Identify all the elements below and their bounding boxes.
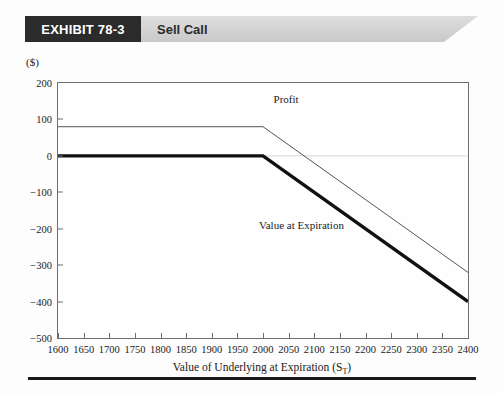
x-axis-tick-mark [212, 333, 213, 338]
x-axis-tick-label: 2150 [329, 344, 350, 355]
y-axis-tick-label: −200 [30, 223, 52, 234]
x-axis-tick-mark [289, 333, 290, 338]
y-axis-tick-mark [58, 265, 63, 266]
x-axis-tick-label: 1600 [48, 344, 69, 355]
x-axis-tick-label: 2250 [381, 344, 402, 355]
y-axis-unit-label: ($) [26, 56, 39, 68]
footer-divider [28, 377, 476, 380]
series-label-0: Profit [274, 93, 299, 105]
y-axis-tick-label: −400 [30, 296, 52, 307]
y-axis-tick-mark [58, 301, 63, 302]
x-axis-tick-mark [135, 333, 136, 338]
x-axis-tick-mark [314, 333, 315, 338]
x-axis-tick-label: 1950 [227, 344, 248, 355]
x-axis-tick-label: 2100 [304, 344, 325, 355]
exhibit-number-label: EXHIBIT 78-3 [41, 22, 124, 37]
x-axis-tick-label: 2000 [253, 344, 274, 355]
x-axis-title-main: Value of Underlying at Expiration (S [173, 361, 343, 373]
x-axis-tick-mark [391, 333, 392, 338]
chart-lines-svg [58, 83, 468, 338]
chart-container: ($) 2001000−100−200−300−400−500160016501… [0, 48, 503, 348]
x-axis-tick-label: 1850 [176, 344, 197, 355]
exhibit-header: EXHIBIT 78-3 Sell Call [25, 16, 478, 42]
x-axis-title-end: ) [347, 361, 351, 373]
y-axis-tick-mark [58, 228, 63, 229]
x-axis-tick-label: 1900 [201, 344, 222, 355]
x-axis-tick-label: 1650 [73, 344, 94, 355]
x-axis-tick-mark [340, 333, 341, 338]
x-axis-tick-mark [58, 333, 59, 338]
x-axis-tick-mark [161, 333, 162, 338]
x-axis-title: Value of Underlying at Expiration (ST) [57, 361, 467, 376]
x-axis-tick-label: 2050 [278, 344, 299, 355]
x-axis-tick-label: 1800 [150, 344, 171, 355]
x-axis-tick-label: 1700 [99, 344, 120, 355]
x-axis-tick-mark [237, 333, 238, 338]
y-axis-tick-label: 200 [36, 78, 52, 89]
x-axis-tick-label: 2400 [458, 344, 479, 355]
x-axis-tick-mark [366, 333, 367, 338]
exhibit-title: Sell Call [157, 16, 208, 42]
y-axis-tick-mark [58, 155, 63, 156]
series-line-0 [58, 127, 468, 273]
x-axis-tick-mark [84, 333, 85, 338]
x-axis-tick-mark [186, 333, 187, 338]
y-axis-tick-mark [58, 192, 63, 193]
y-axis-tick-label: 0 [47, 150, 52, 161]
x-axis-tick-mark [468, 333, 469, 338]
x-axis-tick-mark [263, 333, 264, 338]
plot-area: 2001000−100−200−300−400−5001600165017001… [57, 82, 469, 339]
x-axis-tick-mark [442, 333, 443, 338]
x-axis-tick-mark [417, 333, 418, 338]
series-label-1: Value at Expiration [259, 219, 344, 231]
y-axis-tick-label: −500 [30, 333, 52, 344]
x-axis-tick-label: 2200 [355, 344, 376, 355]
y-axis-tick-mark [58, 119, 63, 120]
y-axis-tick-label: −100 [30, 187, 52, 198]
x-axis-tick-label: 2300 [406, 344, 427, 355]
x-axis-tick-label: 1750 [124, 344, 145, 355]
exhibit-number-block: EXHIBIT 78-3 [25, 16, 141, 42]
x-axis-tick-label: 2350 [432, 344, 453, 355]
x-axis-tick-mark [109, 333, 110, 338]
y-axis-tick-label: 100 [36, 114, 52, 125]
y-axis-tick-label: −300 [30, 260, 52, 271]
